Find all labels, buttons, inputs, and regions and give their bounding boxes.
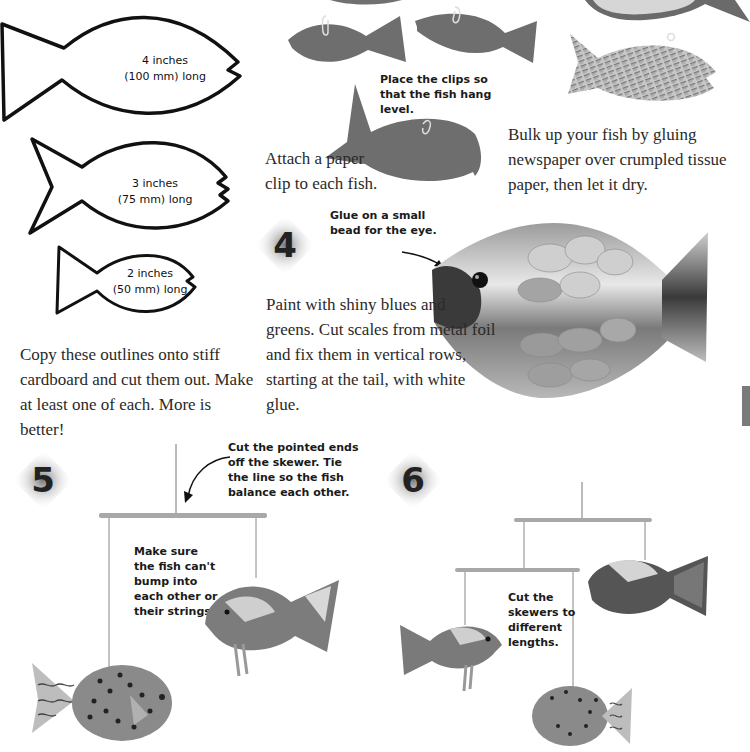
svg-text:4: 4 xyxy=(273,225,297,265)
step4-instruction: Paint with shiny blues and greens. Cut s… xyxy=(266,292,496,417)
cardboard-fish-with-clip-2 xyxy=(415,5,540,63)
painted-fish-photo-2 xyxy=(400,615,505,695)
newspaper-fish xyxy=(568,32,723,107)
step2-instruction: Attach a paper clip to each fish. xyxy=(265,146,385,196)
diamond-badge-icon: 4 xyxy=(255,215,315,275)
step3-instruction: Bulk up your fish by gluing newspaper ov… xyxy=(508,122,748,197)
outline-medium-size: 3 inches xyxy=(105,176,205,192)
spotted-fish-photo-1 xyxy=(30,655,170,745)
outline-large-metric: (100 mm) long xyxy=(105,69,225,85)
cardboard-fish-with-clip-1 xyxy=(288,12,408,64)
outline-medium-label: 3 inches (75 mm) long xyxy=(105,176,205,208)
page-edge-tab xyxy=(742,386,750,426)
spotted-fish-photo-2 xyxy=(530,678,635,748)
cardboard-fish-photo-partial xyxy=(330,0,410,8)
curved-arrow-icon xyxy=(182,455,232,505)
diamond-badge-icon: 5 xyxy=(13,450,73,510)
svg-text:6: 6 xyxy=(401,460,425,500)
svg-text:5: 5 xyxy=(31,460,55,500)
outline-small-size: 2 inches xyxy=(100,266,200,282)
tissue-fish-photo-partial xyxy=(585,0,750,26)
outline-small-metric: (50 mm) long xyxy=(100,282,200,298)
outline-small-label: 2 inches (50 mm) long xyxy=(100,266,200,298)
diamond-badge-icon: 6 xyxy=(383,450,443,510)
outlines-instruction: Copy these outlines onto stiff cardboard… xyxy=(20,342,255,442)
painted-fish-photo-1 xyxy=(205,572,340,682)
step-4-badge: 4 xyxy=(255,215,315,275)
step6-skewer-caption: Cut the skewers to different lengths. xyxy=(508,590,578,650)
step-5-badge: 5 xyxy=(13,450,73,510)
outline-large-label: 4 inches (100 mm) long xyxy=(105,53,225,85)
outline-medium-metric: (75 mm) long xyxy=(105,192,205,208)
foil-fish-photo-2 xyxy=(588,552,710,620)
step-6-badge: 6 xyxy=(383,450,443,510)
outline-large-size: 4 inches xyxy=(105,53,225,69)
